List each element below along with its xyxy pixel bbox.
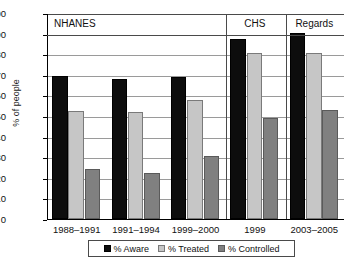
y-tick-label: 0 bbox=[0, 215, 6, 225]
y-tick-mark bbox=[43, 220, 47, 221]
x-tick-label: 1991–1994 bbox=[106, 224, 165, 235]
y-tick-label: 70 bbox=[0, 71, 6, 81]
legend-label-aware: % Aware bbox=[114, 244, 149, 254]
bar-treated bbox=[187, 100, 203, 219]
legend-item-aware: % Aware bbox=[104, 244, 149, 254]
legend: % Aware % Treated % Controlled bbox=[88, 240, 295, 257]
y-tick-label: 60 bbox=[0, 91, 6, 101]
legend-swatch-aware-icon bbox=[104, 245, 111, 252]
bar-controlled bbox=[322, 110, 338, 219]
x-tick-label: 2003–2005 bbox=[285, 224, 344, 235]
bar-aware bbox=[112, 79, 128, 219]
bar-treated bbox=[306, 53, 322, 219]
bar-group bbox=[171, 14, 219, 219]
y-tick-label: 90 bbox=[0, 30, 6, 40]
legend-item-treated: % Treated bbox=[158, 244, 209, 254]
bar-aware bbox=[230, 39, 246, 219]
x-tick-label: 1999–2000 bbox=[166, 224, 225, 235]
bar-controlled bbox=[263, 118, 279, 219]
bar-aware bbox=[171, 77, 187, 219]
bar-group bbox=[290, 14, 338, 219]
bar-aware bbox=[290, 33, 306, 219]
bar-treated bbox=[247, 53, 263, 219]
y-tick-label: 100 bbox=[0, 9, 6, 19]
y-tick-label: 50 bbox=[0, 112, 6, 122]
y-tick-label: 10 bbox=[0, 194, 6, 204]
bar-aware bbox=[52, 76, 68, 219]
bar-group bbox=[112, 14, 160, 219]
bar-treated bbox=[68, 111, 84, 219]
legend-label-treated: % Treated bbox=[168, 244, 209, 254]
x-tick-label: 1999 bbox=[225, 224, 284, 235]
x-tick-label: 1988–1991 bbox=[47, 224, 106, 235]
bar-chart: % of people 1009080706050403020100 NHANE… bbox=[0, 0, 358, 267]
bar-controlled bbox=[85, 169, 101, 219]
bar-group bbox=[52, 14, 100, 219]
bar-group bbox=[230, 14, 278, 219]
y-tick-label: 80 bbox=[0, 50, 6, 60]
y-tick-label: 20 bbox=[0, 174, 6, 184]
section-divider bbox=[226, 14, 227, 219]
y-tick-label: 40 bbox=[0, 133, 6, 143]
section-divider bbox=[286, 14, 287, 219]
bar-controlled bbox=[144, 173, 160, 219]
y-tick-label: 30 bbox=[0, 153, 6, 163]
legend-swatch-controlled-icon bbox=[218, 245, 225, 252]
bar-controlled bbox=[204, 156, 220, 219]
plot-area bbox=[47, 14, 344, 220]
bar-treated bbox=[128, 112, 144, 219]
y-axis-title: % of people bbox=[11, 63, 21, 143]
legend-label-controlled: % Controlled bbox=[228, 244, 280, 254]
legend-item-controlled: % Controlled bbox=[218, 244, 280, 254]
legend-swatch-treated-icon bbox=[158, 245, 165, 252]
